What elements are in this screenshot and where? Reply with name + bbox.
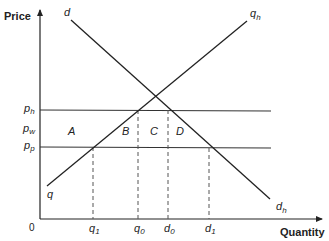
d1-tick-label: d1 <box>205 222 216 236</box>
demand-start-label: d <box>64 6 71 18</box>
demand-curve <box>71 20 270 199</box>
supply-start-label: q <box>47 188 54 200</box>
price-band-diagram: Price Quantity 0 d dh q qh ph pw pp A B … <box>0 0 329 241</box>
pp-label: pp <box>23 139 35 153</box>
d0-tick-label: d0 <box>164 222 175 236</box>
x-axis-label: Quantity <box>280 226 325 238</box>
ph-label: ph <box>23 102 35 116</box>
demand-end-label: dh <box>276 200 287 215</box>
q1-tick-label: q1 <box>89 222 100 236</box>
origin-label: 0 <box>29 222 35 233</box>
supply-curve <box>47 21 247 186</box>
pp-line <box>40 147 271 148</box>
supply-end-label: qh <box>250 7 261 22</box>
area-c-label: C <box>150 125 158 137</box>
y-axis-label: Price <box>4 10 31 22</box>
q0-tick-label: q0 <box>134 222 145 236</box>
area-a-label: A <box>67 125 75 137</box>
area-b-label: B <box>122 125 129 137</box>
ph-line <box>40 110 271 111</box>
area-d-label: D <box>176 125 184 137</box>
pw-label: pw <box>22 122 36 136</box>
